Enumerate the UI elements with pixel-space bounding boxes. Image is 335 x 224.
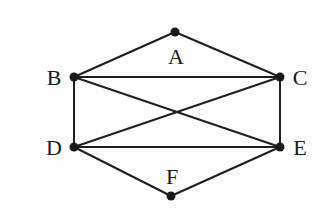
node-label-f: F bbox=[166, 164, 178, 189]
node-label-c: C bbox=[293, 65, 308, 90]
edge-a-b bbox=[74, 32, 175, 77]
node-a bbox=[171, 28, 180, 37]
node-e bbox=[276, 143, 285, 152]
node-b bbox=[70, 73, 79, 82]
labels: ABCDEF bbox=[46, 44, 307, 189]
edge-e-f bbox=[171, 147, 280, 196]
graph-diagram: ABCDEF bbox=[0, 0, 335, 224]
edge-d-f bbox=[74, 147, 171, 196]
node-label-a: A bbox=[168, 44, 184, 69]
node-label-d: D bbox=[46, 135, 62, 160]
edge-a-c bbox=[175, 32, 280, 77]
node-f bbox=[167, 192, 176, 201]
node-c bbox=[276, 73, 285, 82]
node-label-b: B bbox=[47, 65, 62, 90]
node-label-e: E bbox=[293, 135, 306, 160]
node-d bbox=[70, 143, 79, 152]
